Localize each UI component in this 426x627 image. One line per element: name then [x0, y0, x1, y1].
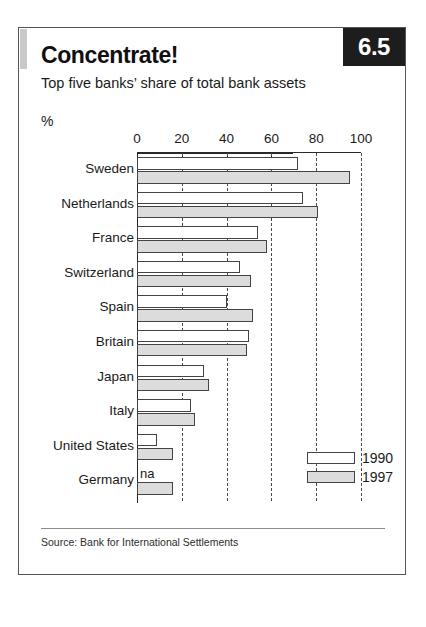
x-tick-label: 100 — [350, 131, 373, 146]
category-label: Britain — [96, 334, 134, 349]
figure-number-badge: 6.5 — [343, 28, 405, 66]
category-label: United States — [53, 438, 134, 453]
bar-group — [137, 434, 173, 461]
category-label: Spain — [99, 299, 134, 314]
source-note: Source: Bank for International Settlemen… — [41, 536, 238, 548]
chart-legend: 1990 1997 — [307, 449, 399, 487]
x-tick-label: 20 — [174, 131, 189, 146]
bar-1997 — [137, 344, 247, 357]
bar-1997 — [137, 379, 209, 392]
bar-group — [137, 330, 249, 357]
x-axis-solid-segment — [137, 152, 293, 154]
bar-row: Spain — [19, 293, 407, 328]
legend-label-1990: 1990 — [362, 450, 393, 466]
category-label: Switzerland — [64, 265, 134, 280]
bar-group — [137, 468, 173, 495]
bar-row: Japan — [19, 363, 407, 398]
bar-1990 — [137, 157, 298, 170]
bar-row: Britain — [19, 328, 407, 363]
axis-unit-label: % — [41, 113, 53, 129]
bar-row: Netherlands — [19, 190, 407, 225]
bar-1990 — [137, 434, 157, 447]
bar-1997 — [137, 413, 195, 426]
legend-item-1997: 1997 — [307, 468, 399, 485]
plot-area: 020406080100 SwedenNetherlandsFranceSwit… — [19, 131, 407, 523]
x-axis-tick-labels: 020406080100 — [19, 131, 407, 149]
figure-panel: 6.5 Concentrate! Top five banks’ share o… — [18, 27, 406, 575]
legend-label-1997: 1997 — [362, 469, 393, 485]
x-tick-label: 80 — [309, 131, 324, 146]
left-accent-bar — [20, 29, 27, 69]
bar-1990 — [137, 192, 303, 205]
bar-group — [137, 295, 253, 322]
bar-group — [137, 157, 350, 184]
bar-1990 — [137, 365, 204, 378]
chart-title: Concentrate! — [41, 42, 178, 69]
bar-group — [137, 365, 209, 392]
bar-1990 — [137, 295, 227, 308]
category-label: Netherlands — [61, 196, 134, 211]
bar-row: Switzerland — [19, 259, 407, 294]
legend-item-1990: 1990 — [307, 449, 399, 466]
category-label: Italy — [109, 403, 134, 418]
category-label: Germany — [78, 472, 134, 487]
legend-swatch-1990 — [307, 452, 355, 464]
category-label: Sweden — [85, 161, 134, 176]
x-tick-label: 60 — [264, 131, 279, 146]
bar-row: Sweden — [19, 155, 407, 190]
bar-1997 — [137, 482, 173, 495]
bar-row: France — [19, 224, 407, 259]
bar-1997 — [137, 171, 350, 184]
bar-group — [137, 192, 318, 219]
bar-group — [137, 261, 251, 288]
bar-1990 — [137, 330, 249, 343]
bar-1997 — [137, 448, 173, 461]
bar-1990 — [137, 226, 258, 239]
bar-1997 — [137, 206, 318, 219]
bar-1990 — [137, 261, 240, 274]
bar-1997 — [137, 275, 251, 288]
bar-1997 — [137, 309, 253, 322]
chart-subtitle: Top five banks’ share of total bank asse… — [41, 74, 381, 93]
legend-swatch-1997 — [307, 471, 355, 483]
x-tick-label: 0 — [133, 131, 141, 146]
category-label: France — [92, 230, 134, 245]
bar-group — [137, 226, 267, 253]
bar-row: Italy — [19, 397, 407, 432]
bar-1990 — [137, 399, 191, 412]
bar-1997 — [137, 240, 267, 253]
source-divider — [41, 528, 385, 529]
bar-group — [137, 399, 195, 426]
category-label: Japan — [97, 369, 134, 384]
x-tick-label: 40 — [219, 131, 234, 146]
